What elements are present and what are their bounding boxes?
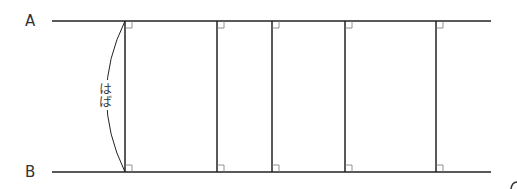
perpendicular-lines — [125, 21, 436, 172]
diagram-canvas — [0, 0, 517, 189]
width-label: はば — [98, 80, 111, 110]
right-angle-marks — [125, 21, 443, 172]
corner-partial-glyph — [511, 182, 517, 189]
